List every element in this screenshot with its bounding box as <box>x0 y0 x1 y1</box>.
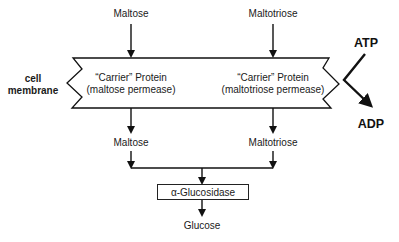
cell-membrane-label: cell membrane <box>8 73 59 96</box>
atp-label: ATP <box>354 36 378 50</box>
alpha-glucosidase-box: α-Glucosidase <box>157 184 249 200</box>
cell-membrane-label-line2: membrane <box>8 84 59 96</box>
atp-adp-arrow <box>344 54 368 103</box>
carrier-protein-maltotriose: “Carrier” Protein (maltotriose permease) <box>222 72 325 95</box>
carrier-protein-maltose-line1: “Carrier” Protein <box>95 72 167 84</box>
alpha-glucosidase-label: α-Glucosidase <box>171 187 235 198</box>
adp-label: ADP <box>358 117 384 131</box>
carrier-protein-maltotriose-line2: (maltotriose permease) <box>222 83 325 95</box>
input-maltose-label: Maltose <box>113 8 148 20</box>
diagram-lines <box>0 0 399 242</box>
cell-membrane-label-line1: cell <box>25 73 42 85</box>
glucose-label: Glucose <box>184 220 221 232</box>
inside-maltose-label: Maltose <box>113 137 148 149</box>
carrier-protein-maltotriose-line1: “Carrier” Protein <box>237 72 309 84</box>
input-maltotriose-label: Maltotriose <box>249 8 298 20</box>
maltose-transport-diagram: Maltose Maltotriose cell membrane “Carri… <box>0 0 399 242</box>
carrier-protein-maltose: “Carrier” Protein (maltose permease) <box>87 72 176 95</box>
carrier-protein-maltose-line2: (maltose permease) <box>87 83 176 95</box>
inside-maltotriose-label: Maltotriose <box>249 137 298 149</box>
